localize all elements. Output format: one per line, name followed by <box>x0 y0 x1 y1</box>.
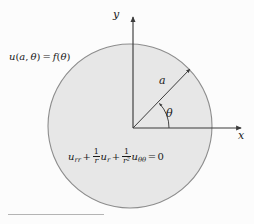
pde-term1-subscript: rr <box>74 156 81 164</box>
radius-label: a <box>159 75 166 86</box>
disk-region <box>48 44 212 208</box>
angle-label: θ <box>166 108 173 119</box>
boundary-condition-label: u(a, θ) = f(θ) <box>9 52 70 62</box>
pde-fraction-2-denominator: r2 <box>122 156 131 165</box>
pde-fraction-1-denominator: r <box>93 156 100 165</box>
pde-fraction-1: 1r <box>93 148 100 165</box>
y-axis-label: y <box>113 9 119 20</box>
pde-equals: = <box>146 151 157 162</box>
pde-plus-1: + <box>81 151 92 162</box>
figure-container: y x a θ u(a, θ) = f(θ) urr+1rur+1r2uθθ=0 <box>0 0 254 224</box>
x-axis-label: x <box>238 130 244 141</box>
bc-equals: = <box>40 51 52 62</box>
pde-plus-2: + <box>110 151 121 162</box>
pde-fraction-2-denominator-exponent: 2 <box>127 156 130 162</box>
pde-fraction-1-numerator: 1 <box>93 148 100 156</box>
pde-fraction-2: 1r2 <box>122 148 131 166</box>
figure-graphics <box>0 0 254 224</box>
caption-rule <box>8 214 104 215</box>
pde-zero: 0 <box>158 151 164 162</box>
pde-label: urr+1rur+1r2uθθ=0 <box>68 148 164 166</box>
pde-term3-subscript: θθ <box>138 156 146 164</box>
pde-fraction-2-numerator: 1 <box>122 148 131 156</box>
bc-f-close-paren: ) <box>66 51 70 62</box>
